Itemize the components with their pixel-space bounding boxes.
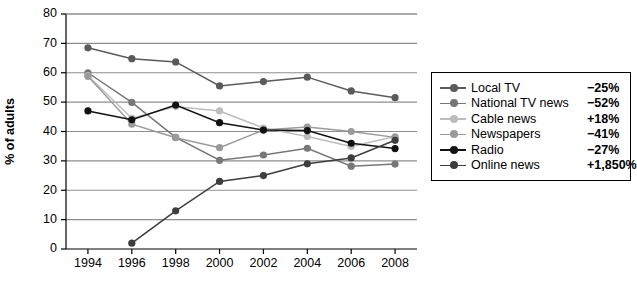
chart-legend: Local TV−25%National TV news−52%Cable ne… — [431, 72, 631, 181]
data-point — [304, 160, 311, 167]
data-point — [260, 172, 267, 179]
series-line — [88, 76, 395, 147]
data-point — [216, 82, 223, 89]
data-point — [348, 128, 355, 135]
data-point — [260, 151, 267, 158]
series-line — [88, 76, 395, 147]
legend-change-value: −25% — [587, 81, 619, 95]
y-tick-label: 20 — [43, 183, 57, 197]
y-tick-label: 0 — [50, 241, 57, 255]
data-point — [172, 58, 179, 65]
y-tick-label: 40 — [43, 124, 57, 138]
data-point — [391, 94, 398, 101]
legend-item[interactable]: National TV news−52% — [440, 96, 630, 112]
legend-change-value: +1,850% — [587, 158, 637, 172]
legend-marker-icon — [440, 82, 466, 93]
legend-marker-icon — [440, 98, 466, 109]
legend-item[interactable]: Cable news+18% — [440, 111, 630, 127]
legend-change-value: −27% — [587, 143, 619, 157]
legend-change-value: +18% — [587, 112, 619, 126]
legend-item[interactable]: Newspapers−41% — [440, 127, 630, 143]
data-point — [348, 154, 355, 161]
data-point — [304, 127, 311, 134]
data-point — [128, 99, 135, 106]
data-point — [348, 163, 355, 170]
data-point — [348, 87, 355, 94]
x-tick-label: 1994 — [74, 256, 102, 270]
data-series-group — [84, 44, 398, 247]
legend-item[interactable]: Radio−27% — [440, 142, 630, 158]
data-point — [216, 178, 223, 185]
data-point — [172, 101, 179, 108]
data-point — [304, 145, 311, 152]
data-point — [84, 107, 91, 114]
legend-marker-icon — [440, 113, 466, 124]
legend-marker-icon — [440, 129, 466, 140]
x-tick-label: 2000 — [206, 256, 234, 270]
legend-label: Cable news — [471, 112, 587, 126]
legend-marker-icon — [440, 160, 466, 171]
y-tick-label: 30 — [43, 153, 57, 167]
y-tick-label: 10 — [43, 212, 57, 226]
axis-ticks — [61, 14, 395, 254]
data-point — [260, 126, 267, 133]
x-tick-label: 1998 — [162, 256, 190, 270]
x-tick-label: 2002 — [250, 256, 278, 270]
legend-change-value: −52% — [587, 96, 619, 110]
legend-item[interactable]: Local TV−25% — [440, 80, 630, 96]
data-point — [128, 55, 135, 62]
legend-label: Online news — [471, 158, 587, 172]
legend-label: National TV news — [471, 96, 587, 110]
data-point — [84, 44, 91, 51]
data-point — [172, 207, 179, 214]
x-tick-label: 2006 — [337, 256, 365, 270]
legend-label: Radio — [471, 143, 587, 157]
data-point — [260, 78, 267, 85]
data-point — [391, 161, 398, 168]
data-point — [128, 116, 135, 123]
data-point — [216, 119, 223, 126]
legend-item[interactable]: Online news+1,850% — [440, 158, 630, 174]
x-tick-label: 1996 — [118, 256, 146, 270]
axis-tick-labels: 0102030405060708019941996199820002002200… — [43, 6, 409, 270]
y-axis-title: % of adults — [3, 98, 17, 165]
data-point — [84, 73, 91, 80]
data-point — [304, 74, 311, 81]
y-tick-label: 70 — [43, 36, 57, 50]
y-tick-label: 60 — [43, 65, 57, 79]
data-point — [216, 107, 223, 114]
data-point — [172, 134, 179, 141]
data-point — [216, 144, 223, 151]
x-tick-label: 2008 — [381, 256, 409, 270]
data-point — [391, 145, 398, 152]
data-point — [348, 140, 355, 147]
legend-marker-icon — [440, 144, 466, 155]
data-point — [128, 240, 135, 247]
legend-change-value: −41% — [587, 127, 619, 141]
y-tick-label: 80 — [43, 6, 57, 20]
data-point — [391, 137, 398, 144]
y-tick-label: 50 — [43, 94, 57, 108]
data-point — [216, 157, 223, 164]
legend-label: Local TV — [471, 81, 587, 95]
x-tick-label: 2004 — [293, 256, 321, 270]
legend-label: Newspapers — [471, 127, 587, 141]
